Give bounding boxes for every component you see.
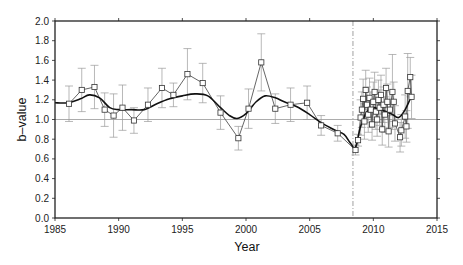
square-marker: [359, 107, 364, 112]
square-marker: [361, 96, 366, 101]
square-marker: [246, 106, 251, 111]
square-marker: [305, 100, 310, 105]
x-tick-label: 2000: [235, 224, 258, 235]
x-tick-label: 2005: [299, 224, 322, 235]
square-marker: [145, 102, 150, 107]
square-marker: [102, 107, 107, 112]
square-marker: [363, 87, 368, 92]
b-value-chart: 1985199019952000200520102015 0.00.20.40.…: [0, 0, 463, 265]
square-marker: [335, 131, 340, 136]
square-marker: [376, 97, 381, 102]
square-marker: [371, 99, 376, 104]
square-marker: [273, 106, 278, 111]
square-marker: [355, 138, 360, 143]
x-tick-label: 2015: [426, 224, 449, 235]
square-marker: [200, 80, 205, 85]
square-marker: [259, 60, 264, 65]
square-marker: [405, 88, 410, 93]
square-marker: [387, 107, 392, 112]
square-marker: [319, 123, 324, 128]
square-marker: [79, 87, 84, 92]
square-marker: [403, 114, 408, 119]
y-tick-label: 1.0: [35, 114, 49, 125]
square-marker: [397, 135, 402, 140]
square-marker: [236, 136, 241, 141]
square-marker: [391, 99, 396, 104]
y-tick-label: 0.0: [35, 213, 49, 224]
square-marker: [218, 110, 223, 115]
square-marker: [409, 94, 414, 99]
square-marker: [185, 72, 190, 77]
square-marker: [386, 129, 391, 134]
square-marker: [408, 75, 413, 80]
square-marker: [372, 89, 377, 94]
y-tick-label: 0.8: [35, 134, 49, 145]
x-tick-label: 1990: [108, 224, 131, 235]
square-marker: [378, 92, 383, 97]
y-tick-label: 1.8: [35, 35, 49, 46]
square-marker: [380, 127, 385, 132]
y-tick-label: 0.6: [35, 153, 49, 164]
square-marker: [392, 121, 397, 126]
y-tick-label: 0.4: [35, 173, 49, 184]
square-marker: [385, 99, 390, 104]
x-tick-label: 1995: [171, 224, 194, 235]
square-marker: [399, 128, 404, 133]
square-marker: [375, 117, 380, 122]
square-marker: [366, 112, 371, 117]
square-marker: [92, 84, 97, 89]
square-marker: [131, 118, 136, 123]
square-marker: [120, 105, 125, 110]
square-marker: [288, 102, 293, 107]
y-tick-label: 1.4: [35, 75, 49, 86]
square-marker: [369, 122, 374, 127]
square-marker: [383, 85, 388, 90]
square-marker: [390, 89, 395, 94]
x-tick-label: 2010: [362, 224, 385, 235]
square-marker: [368, 107, 373, 112]
square-marker: [382, 112, 387, 117]
x-axis-label: Year: [234, 240, 259, 254]
y-tick-label: 1.2: [35, 94, 49, 105]
square-marker: [171, 92, 176, 97]
square-marker: [364, 102, 369, 107]
y-tick-label: 1.6: [35, 55, 49, 66]
x-tick-label: 1985: [44, 224, 67, 235]
square-marker: [66, 101, 71, 106]
y-tick-label: 2.0: [35, 16, 49, 27]
square-marker: [353, 147, 358, 152]
square-marker: [159, 85, 164, 90]
square-marker: [111, 113, 116, 118]
square-marker: [404, 124, 409, 129]
y-axis-label: b–value: [15, 98, 29, 142]
square-marker: [362, 119, 367, 124]
y-tick-label: 0.2: [35, 193, 49, 204]
